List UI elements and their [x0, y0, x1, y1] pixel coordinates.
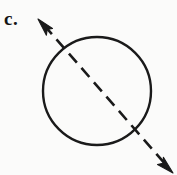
figure-item-label: c.	[4, 9, 18, 29]
figure-container: c.	[0, 0, 177, 175]
figure-drawing	[0, 0, 177, 175]
